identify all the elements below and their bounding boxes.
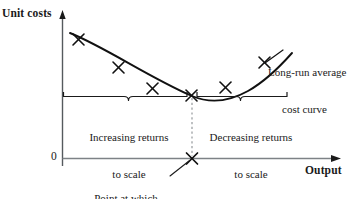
curve-marker-5	[220, 82, 231, 93]
minimum-point-caption-line-1: Point at which	[43, 192, 209, 199]
origin-label: 0	[51, 150, 57, 163]
increasing-returns-line-1: Increasing returns	[70, 131, 188, 143]
decreasing-returns-line-1: Decreasing returns	[196, 131, 306, 143]
y-axis-label: Unit costs	[2, 7, 52, 20]
y-axis	[59, 10, 65, 166]
curve-label-line-1: Long-run average	[268, 66, 347, 78]
curve-data-markers	[73, 34, 270, 101]
decreasing-returns-label: Decreasing returns to scale	[196, 106, 306, 199]
lrac-curve	[70, 33, 292, 101]
curve-marker-3	[147, 83, 158, 94]
x-axis-label: Output	[305, 164, 342, 177]
lrac-cost-curve-figure: Unit costs Output 0 Long-run average cos…	[0, 0, 363, 199]
minimum-point-caption: Point at which decreasing returns set in	[43, 167, 209, 199]
decreasing-returns-line-2: to scale	[196, 168, 306, 180]
increasing-returns-brace	[64, 92, 188, 101]
curve-marker-2	[113, 62, 124, 73]
